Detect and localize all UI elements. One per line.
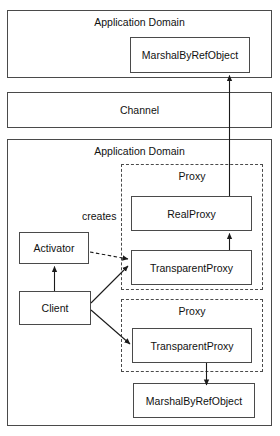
transparent-proxy-upper-label: TransparentProxy bbox=[132, 262, 251, 274]
real-proxy-label: RealProxy bbox=[132, 208, 251, 220]
node-real-proxy: RealProxy bbox=[131, 196, 252, 231]
node-marshal-by-ref-object-bottom: MarshalByRefObject bbox=[133, 383, 255, 418]
remoting-proxy-diagram: Application Domain MarshalByRefObject Ch… bbox=[0, 0, 280, 436]
node-transparent-proxy-lower: TransparentProxy bbox=[132, 328, 252, 363]
node-marshal-by-ref-object-top: MarshalByRefObject bbox=[130, 37, 250, 73]
proxy-upper-label: Proxy bbox=[122, 170, 262, 182]
node-activator: Activator bbox=[19, 232, 89, 264]
node-transparent-proxy-upper: TransparentProxy bbox=[131, 250, 252, 285]
bottom-application-domain-label: Application Domain bbox=[8, 145, 271, 157]
proxy-lower-label: Proxy bbox=[122, 305, 262, 317]
marshal-by-ref-object-top-label: MarshalByRefObject bbox=[131, 49, 249, 61]
transparent-proxy-lower-label: TransparentProxy bbox=[133, 340, 251, 352]
container-channel: Channel bbox=[7, 92, 272, 128]
activator-label: Activator bbox=[20, 242, 88, 254]
top-application-domain-label: Application Domain bbox=[8, 16, 271, 28]
node-client: Client bbox=[19, 291, 91, 325]
channel-label: Channel bbox=[8, 104, 271, 116]
creates-annotation: creates bbox=[82, 210, 116, 222]
marshal-by-ref-object-bottom-label: MarshalByRefObject bbox=[134, 395, 254, 407]
client-label: Client bbox=[20, 302, 90, 314]
